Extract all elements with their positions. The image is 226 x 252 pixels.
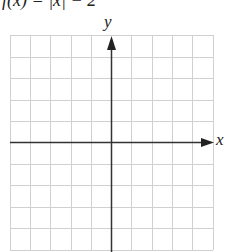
coordinate-grid [0,0,226,252]
x-axis-arrow-icon [201,138,214,147]
y-axis-arrow-icon [107,36,116,50]
y-axis [107,36,116,252]
